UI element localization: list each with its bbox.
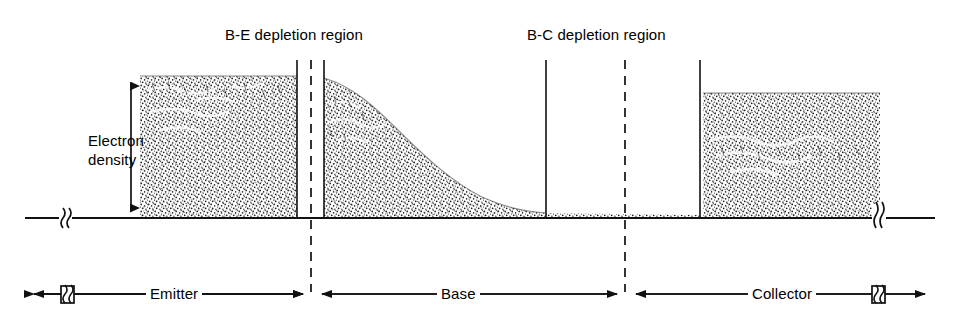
bc-depletion-region-label: B-C depletion region <box>527 26 666 43</box>
figure-canvas <box>0 0 959 332</box>
density-areas <box>138 72 883 222</box>
collector-region-label: Collector <box>748 285 816 302</box>
electron-density-label-line1: Electron <box>88 131 144 150</box>
electron-density-label-line2: density <box>88 150 144 169</box>
collector-density-area <box>701 89 883 221</box>
emitter-region-label: Emitter <box>146 285 202 302</box>
axis-break-mark-right <box>872 202 886 228</box>
collector-break-mark <box>872 285 885 303</box>
axis-break-mark-left <box>59 208 72 228</box>
emitter-break-mark <box>61 285 74 303</box>
emitter-density-area <box>138 72 300 222</box>
electron-density-figure: B-E depletion region B-C depletion regio… <box>0 0 959 332</box>
base-density-area <box>320 72 552 222</box>
be-depletion-region-label: B-E depletion region <box>225 26 363 43</box>
electron-density-axis-label: Electron density <box>88 131 144 169</box>
base-region-label: Base <box>437 285 480 302</box>
